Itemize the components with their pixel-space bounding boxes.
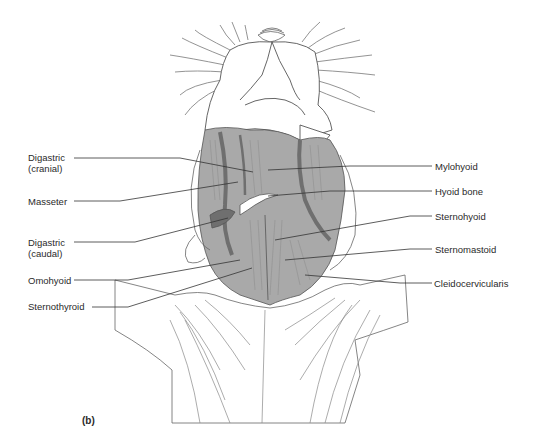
panel-label: (b): [82, 415, 95, 426]
anatomy-figure: Digastric (cranial) Masseter Digastric (…: [0, 0, 539, 448]
snout: [258, 28, 285, 42]
label-digastric-caudal: Digastric (caudal): [28, 237, 65, 259]
label-line: Digastric: [28, 152, 65, 163]
label-line: Sternothyroid: [28, 301, 85, 312]
label-line: (cranial): [28, 163, 65, 174]
label-line: Omohyoid: [28, 275, 71, 286]
label-digastric-cranial: Digastric (cranial): [28, 152, 65, 174]
label-cleidocervicularis: Cleidocervicularis: [434, 278, 508, 289]
label-line: (caudal): [28, 248, 65, 259]
label-sternothyroid: Sternothyroid: [28, 301, 85, 312]
label-mylohyoid: Mylohyoid: [435, 161, 478, 172]
label-sternomastoid: Sternomastoid: [435, 244, 496, 255]
label-line: Masseter: [28, 196, 67, 207]
label-hyoid-bone: Hyoid bone: [435, 186, 483, 197]
ventral-neck-muscles-illustration: [0, 0, 539, 448]
label-masseter: Masseter: [28, 196, 67, 207]
label-omohyoid: Omohyoid: [28, 275, 71, 286]
label-line: Digastric: [28, 237, 65, 248]
label-sternohyoid: Sternohyoid: [435, 211, 486, 222]
